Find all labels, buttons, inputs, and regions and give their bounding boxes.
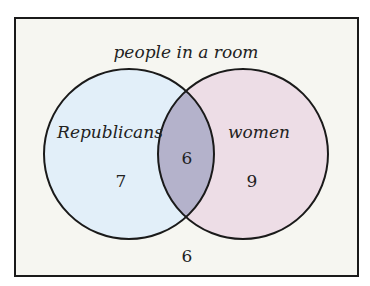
women-label: women — [228, 122, 290, 142]
outside-count: 6 — [182, 246, 193, 266]
intersection-count: 6 — [182, 148, 193, 168]
universe-label: people in a room — [113, 42, 258, 62]
venn-diagram: people in a room Republicans women 7 9 6… — [0, 0, 370, 286]
republicans-label: Republicans — [56, 122, 163, 142]
women-only-count: 9 — [247, 171, 258, 191]
republicans-only-count: 7 — [116, 171, 127, 191]
